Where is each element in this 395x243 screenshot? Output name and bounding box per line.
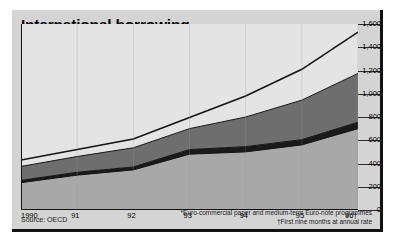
y-tick-label: 1,200	[362, 67, 381, 75]
chart-figure: International borrowing on the capital m…	[12, 10, 383, 232]
y-tick-label: 600	[368, 137, 381, 145]
y-tick-label: 1,400	[362, 44, 381, 52]
y-tick-label: 0	[377, 206, 381, 214]
chart-plot-area	[21, 24, 358, 210]
y-tick-label: 1,000	[362, 90, 381, 98]
footnotes: *Euro-commercial paper and medium-term E…	[181, 209, 372, 227]
footnote-dagger: †First nine months at annual rate	[181, 218, 372, 227]
source-label: Source: OECD	[21, 216, 67, 223]
y-tick-label: 400	[368, 160, 381, 168]
y-tick-label: 200	[368, 183, 381, 191]
footnote-asterisk: *Euro-commercial paper and medium-term E…	[181, 209, 372, 218]
x-tick-label: 91	[71, 211, 79, 220]
y-tick-label: 1,600	[362, 20, 381, 28]
y-tick-label: 800	[368, 113, 381, 121]
y-axis: 02004006008001,0001,2001,4001,600	[358, 24, 384, 210]
stacked-area-svg	[21, 24, 358, 210]
x-tick-label: 92	[127, 211, 135, 220]
